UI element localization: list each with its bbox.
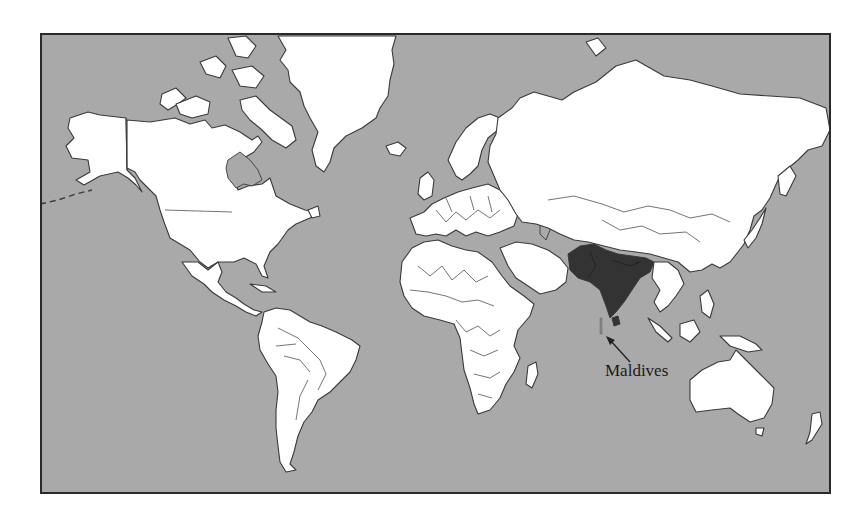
world-map bbox=[40, 33, 831, 494]
tasmania bbox=[756, 428, 764, 436]
map-svg bbox=[40, 33, 831, 494]
maldives bbox=[600, 318, 602, 334]
maldives-label: Maldives bbox=[605, 361, 668, 381]
sri-lanka bbox=[612, 316, 620, 326]
